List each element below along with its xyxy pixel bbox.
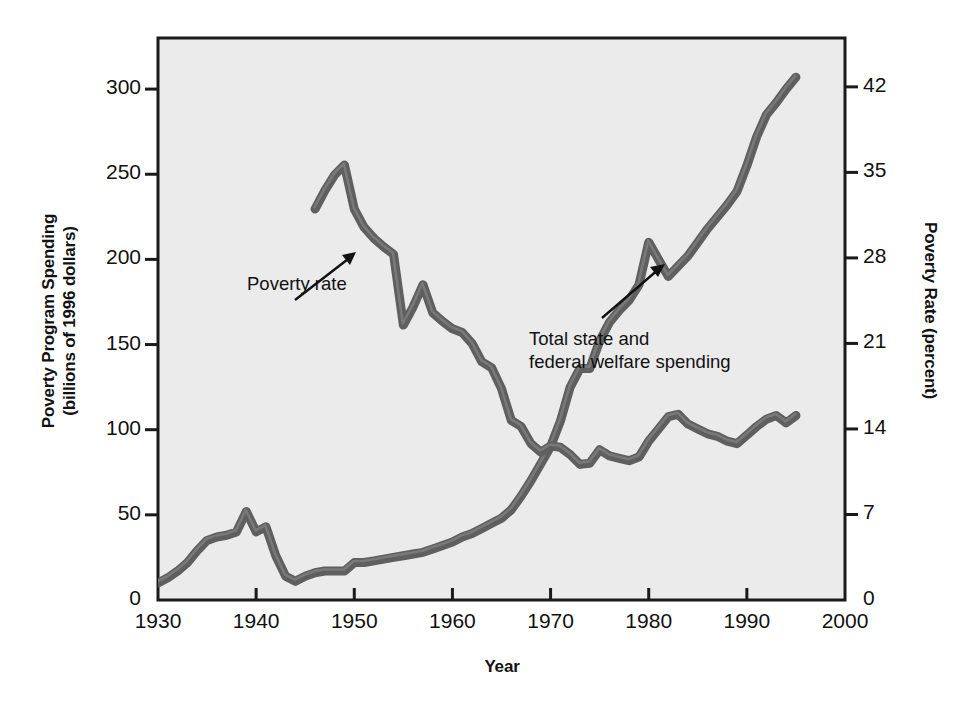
x-tick-1940: 1940	[216, 609, 296, 633]
annotation-poverty-rate: Poverty rate	[247, 272, 347, 295]
y-tick-left-250: 250	[81, 160, 141, 184]
annotation-welfare-spending: Total state and federal welfare spending	[529, 327, 731, 373]
y-axis-right-ticks	[845, 87, 858, 515]
x-tick-1950: 1950	[314, 609, 394, 633]
y-tick-left-150: 150	[81, 331, 141, 355]
y-tick-left-200: 200	[81, 245, 141, 269]
y-tick-left-300: 300	[81, 75, 141, 99]
y-axis-right-title: Poverty Rate (percent)	[920, 171, 941, 451]
y-axis-left-title-line1: Poverty Program Spending	[39, 214, 58, 428]
x-tick-1970: 1970	[511, 609, 591, 633]
y-tick-left-100: 100	[81, 416, 141, 440]
x-tick-1930: 1930	[118, 609, 198, 633]
y-tick-right-35: 35	[863, 158, 923, 182]
y-tick-right-42: 42	[863, 73, 923, 97]
y-axis-left-title: Poverty Program Spending (billions of 19…	[38, 176, 80, 466]
plot-area	[0, 0, 973, 708]
y-tick-right-28: 28	[863, 244, 923, 268]
y-axis-left-ticks	[145, 89, 158, 515]
x-tick-1960: 1960	[412, 609, 492, 633]
y-tick-right-14: 14	[863, 415, 923, 439]
y-tick-right-21: 21	[863, 329, 923, 353]
x-tick-2000: 2000	[805, 609, 885, 633]
y-axis-left-title-line2: (billions of 1996 dollars)	[60, 226, 79, 415]
y-tick-left-0: 0	[81, 586, 141, 610]
y-tick-left-50: 50	[81, 501, 141, 525]
y-tick-right-0: 0	[863, 586, 923, 610]
x-tick-1990: 1990	[707, 609, 787, 633]
chart-figure: Poverty Program Spending (billions of 19…	[0, 0, 973, 708]
x-tick-1980: 1980	[609, 609, 689, 633]
y-tick-right-7: 7	[863, 500, 923, 524]
x-axis-title: Year	[158, 657, 846, 677]
